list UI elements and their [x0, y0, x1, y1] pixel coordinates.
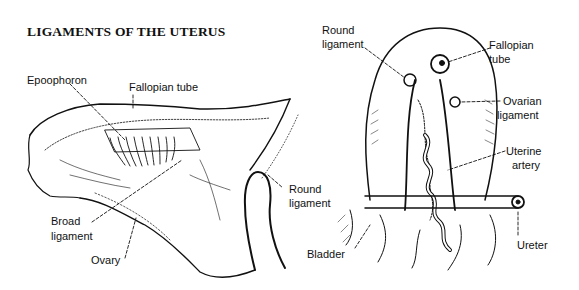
label-ovarian-ligament-line1: Ovarian [503, 95, 542, 108]
label-bladder: Bladder [307, 248, 345, 261]
label-ovarian-ligament-line2: ligament [497, 109, 539, 122]
label-fallopian-tube-right-line1: Fallopian [489, 39, 534, 52]
label-round-ligament-left-line2: ligament [289, 197, 331, 210]
label-uterine-artery-line1: Uterine [506, 145, 541, 158]
label-round-ligament-right-line1: Round [322, 24, 354, 37]
label-broad-ligament-line2: ligament [51, 230, 93, 243]
label-ovary: Ovary [91, 254, 120, 267]
label-fallopian-tube-left: Fallopian tube [129, 81, 198, 94]
broad-ligament-drawing [28, 99, 298, 277]
label-broad-ligament-line1: Broad [51, 215, 80, 228]
label-uterine-artery-line2: artery [512, 159, 540, 172]
label-fallopian-tube-right-line2: tube [489, 53, 510, 66]
left-leader-lines [70, 84, 283, 258]
label-ureter: Ureter [517, 239, 548, 252]
label-round-ligament-left-line1: Round [289, 183, 321, 196]
label-epoophoron: Epoophoron [27, 74, 87, 87]
label-round-ligament-right-line2: ligament [322, 38, 364, 51]
